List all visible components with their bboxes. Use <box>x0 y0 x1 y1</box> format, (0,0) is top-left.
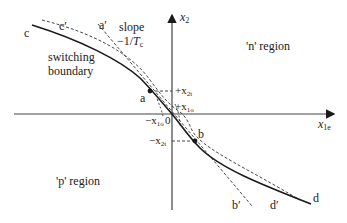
label-b-prime: b′ <box>232 198 241 212</box>
label-d: d <box>313 191 319 205</box>
label-slope-value: −1/Tc <box>117 34 144 49</box>
label-p-region: 'p' region <box>56 174 100 188</box>
label-minus-x2t: −x2t <box>149 134 166 148</box>
point-a <box>148 89 153 94</box>
label-x1e-axis: x1e <box>317 117 331 132</box>
label-a-prime: a′ <box>99 18 107 32</box>
label-boundary: boundary <box>48 64 93 78</box>
label-switching: switching <box>48 50 95 64</box>
label-point-b: b <box>198 127 204 141</box>
label-minus-x1o: −x1o <box>145 114 164 128</box>
label-c-prime: c′ <box>59 19 67 33</box>
label-x2-axis: x2 <box>179 10 189 25</box>
label-slope: slope <box>119 20 144 34</box>
label-c: c <box>24 26 29 40</box>
point-b <box>193 139 198 144</box>
label-n-region: 'n' region <box>246 39 290 53</box>
label-plus-x2t: +x2t <box>175 84 192 98</box>
slope-line <box>98 24 252 206</box>
switching-boundary-diagram: c c′ a′ slope −1/Tc switching boundary x… <box>0 0 347 223</box>
label-d-prime: d′ <box>270 198 279 212</box>
label-point-a: a <box>140 91 146 105</box>
label-origin: 0 <box>165 114 171 126</box>
label-plus-x1o: +x1o <box>175 100 194 114</box>
